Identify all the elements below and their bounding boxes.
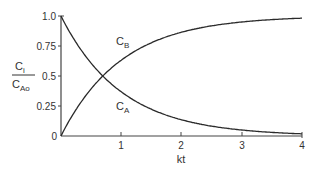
series-cb-line [61, 18, 302, 136]
svg-text:CAo: CAo [12, 78, 30, 93]
x-tick-label: 3 [239, 140, 245, 151]
x-axis-label: kt [177, 153, 186, 165]
y-tick-label: 0.25 [37, 101, 57, 112]
x-tick-label: 1 [118, 140, 124, 151]
y-axis-label: Ci CAo [12, 60, 35, 93]
y-tick-label: 0 [51, 131, 57, 142]
x-tick-label: 2 [178, 140, 184, 151]
y-tick-label: 0.75 [37, 41, 57, 52]
chart: 1.0 0.75 0.5 0.25 0 1 2 3 4 kt Ci CAo CB… [0, 0, 316, 172]
y-tick-label: 1.0 [42, 11, 56, 22]
series-ca-label: CA [116, 100, 130, 115]
y-tick-label: 0.5 [42, 71, 56, 82]
x-tick-label: 4 [299, 140, 305, 151]
svg-text:Ci: Ci [15, 60, 25, 75]
series-ca-line [61, 16, 302, 134]
series-cb-label: CB [116, 35, 129, 50]
